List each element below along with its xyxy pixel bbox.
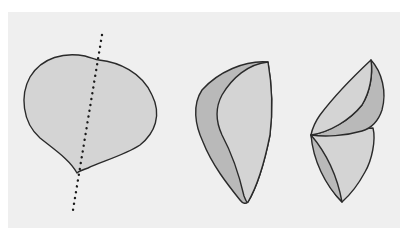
- flat-leaf-figure: [24, 35, 157, 210]
- leaf-folding-diagram: [0, 0, 403, 235]
- half-folded-leaf-figure: [196, 62, 272, 204]
- fully-folded-leaf-figure: [311, 60, 384, 202]
- flat-leaf-shape: [24, 55, 157, 173]
